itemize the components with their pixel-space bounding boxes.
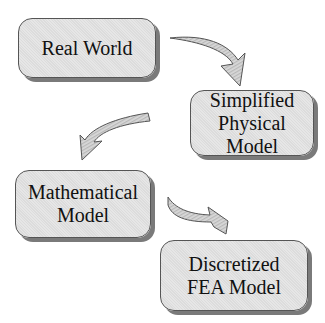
node-label-line2: FEA Model bbox=[187, 276, 281, 299]
node-mathematical-model: Mathematical Model bbox=[15, 170, 151, 238]
node-label-line1: Mathematical bbox=[28, 181, 138, 204]
arrow-real-to-simplified bbox=[170, 37, 245, 86]
node-real-world: Real World bbox=[18, 18, 156, 78]
node-label-line1: Discretized bbox=[187, 253, 281, 276]
node-label-line1: Simplified bbox=[191, 89, 313, 112]
arrow-simplified-to-mathematical bbox=[80, 113, 150, 160]
node-label-line2: Model bbox=[28, 204, 138, 227]
node-simplified-physical-model: Simplified Physical Model bbox=[190, 90, 314, 156]
arrow-mathematical-to-discretized bbox=[168, 197, 228, 234]
node-discretized-fea-model: Discretized FEA Model bbox=[160, 240, 308, 311]
node-label-line2: Physical Model bbox=[191, 112, 313, 158]
node-label: Real World bbox=[42, 37, 133, 60]
